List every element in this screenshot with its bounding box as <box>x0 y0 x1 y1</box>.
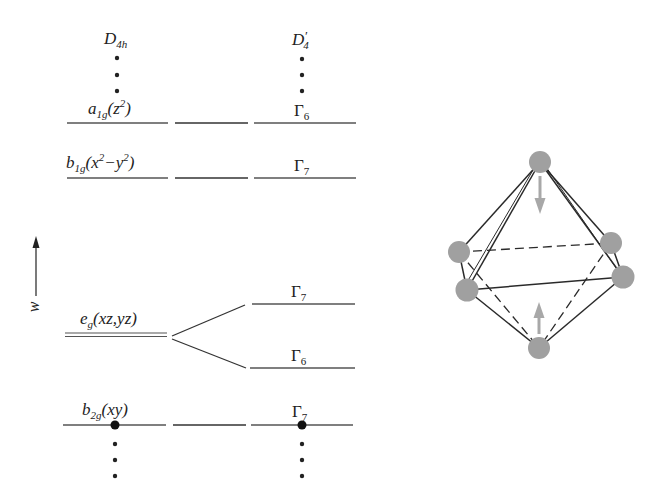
down-arrow-icon <box>535 198 546 214</box>
energy-level-diagram <box>0 0 659 498</box>
level-gamma7-eg-label: Γ7 <box>291 283 306 300</box>
ligand-bottom <box>528 337 550 359</box>
octahedron-hidden-edges <box>459 243 611 348</box>
level-gamma6-eg-label: Γ6 <box>291 347 306 364</box>
ellipsis-dots-bottom <box>113 442 304 478</box>
ligand-left-front <box>456 279 479 302</box>
level-gamma7-b2g-label: Γ7 <box>292 403 307 420</box>
level-gamma6-top-label: Γ6 <box>294 102 309 119</box>
energy-axis-arrow <box>33 236 40 296</box>
level-a1g-label: a1g(z2) <box>88 100 131 117</box>
level-eg-label: eg(xz,yz) <box>80 310 137 327</box>
ellipsis-dots-top <box>115 56 304 93</box>
level-b2g-label: b2g(xy) <box>82 401 128 418</box>
level-b1g-label: b1g(x2−y2) <box>66 154 134 171</box>
eg-splitting-lines <box>172 305 246 368</box>
level-gamma7-b1g-label: Γ7 <box>294 157 309 174</box>
ligand-right-back <box>600 232 622 254</box>
right-group-label: D′4 <box>292 31 309 48</box>
octahedron <box>448 151 635 359</box>
up-arrow-icon <box>534 302 545 318</box>
energy-axis-label: w <box>26 302 42 313</box>
ligand-left-back <box>448 241 470 263</box>
ligand-right-front <box>612 266 635 289</box>
ligand-top <box>529 151 551 173</box>
compression-arrows <box>534 176 546 334</box>
left-group-label: D4h <box>104 30 127 47</box>
level-eg-lines <box>65 333 167 337</box>
